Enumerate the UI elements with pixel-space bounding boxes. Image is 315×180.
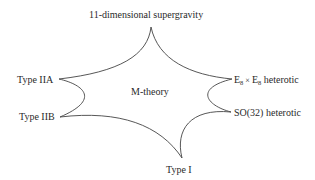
label-type-iib: Type IIB (19, 111, 55, 122)
e8-sub-1: 8 (240, 79, 243, 86)
times-symbol: × (245, 76, 250, 85)
e8-suffix: heterotic (264, 74, 299, 85)
label-so32-heterotic: SO(32) heterotic (234, 107, 301, 118)
label-m-theory: M-theory (131, 86, 169, 97)
label-11d-supergravity: 11-dimensional supergravity (89, 9, 203, 20)
label-e8xe8-heterotic: E8×E8 heterotic (234, 74, 299, 88)
e8-sub-2: 8 (258, 79, 261, 86)
m-theory-diagram: 11-dimensional supergravity Type IIA Typ… (0, 0, 315, 180)
label-type-i: Type I (166, 164, 192, 175)
label-type-iia: Type IIA (17, 74, 53, 85)
